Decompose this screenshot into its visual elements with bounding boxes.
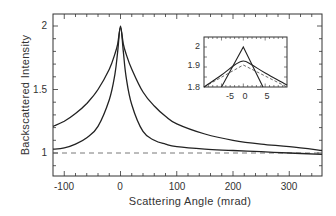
inset-y-tick-1.8: 1.8 xyxy=(187,82,200,92)
inset-x-tick-5: 5 xyxy=(264,91,269,101)
backscatter-chart: 2 1.5 1 -100 0 100 200 300 Scattering An… xyxy=(0,0,336,216)
y-tick-1.5: 1.5 xyxy=(33,84,47,95)
inset-frame xyxy=(204,37,287,87)
y-axis-title: Backscattered Intensity xyxy=(19,34,31,155)
x-axis-title: Scattering Angle (mrad) xyxy=(129,195,251,207)
y-tick-2: 2 xyxy=(41,20,47,31)
x-tick-300: 300 xyxy=(281,181,298,192)
x-tick-100: 100 xyxy=(169,181,186,192)
inset-x-tick-0: 0 xyxy=(242,91,247,101)
x-tick-200: 200 xyxy=(225,181,242,192)
inset-y-tick-2: 2 xyxy=(195,41,200,51)
inset-plot: 2 1.9 1.8 -5 0 5 xyxy=(187,37,287,101)
y-tick-1: 1 xyxy=(41,147,47,158)
x-tick-neg100: -100 xyxy=(54,181,74,192)
x-tick-0: 0 xyxy=(117,181,123,192)
inset-x-tick-neg5: -5 xyxy=(226,91,234,101)
inset-y-tick-1.9: 1.9 xyxy=(187,60,200,70)
